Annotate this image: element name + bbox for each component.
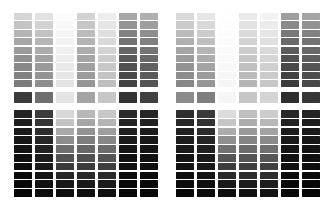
swatch-cell xyxy=(140,110,158,118)
swatch-cell xyxy=(56,13,74,20)
swatch-cell xyxy=(119,110,137,118)
swatch-cell xyxy=(302,13,320,20)
swatch-cell xyxy=(176,145,194,153)
swatch-cell xyxy=(98,63,116,70)
swatch-cell xyxy=(302,80,320,87)
swatch-cell xyxy=(119,163,137,171)
swatch-cell xyxy=(77,145,95,153)
swatch-cell xyxy=(260,172,278,180)
swatch-half-left xyxy=(14,0,161,208)
swatch-cell xyxy=(35,47,53,54)
swatch-cell xyxy=(218,172,236,180)
swatch-cell xyxy=(260,63,278,70)
swatch-cell xyxy=(56,154,74,162)
swatch-cell xyxy=(302,72,320,79)
swatch-cell xyxy=(197,38,215,45)
swatch-cell xyxy=(98,189,116,197)
swatch-cell xyxy=(239,110,257,118)
swatch-cell xyxy=(77,63,95,70)
swatch-cell xyxy=(140,63,158,70)
swatch-cell xyxy=(98,72,116,79)
swatch-cell xyxy=(239,47,257,54)
swatch-cell xyxy=(260,128,278,136)
swatch-cell xyxy=(260,13,278,20)
swatch-cell xyxy=(140,55,158,62)
swatch-cell xyxy=(281,172,299,180)
swatch-cell xyxy=(176,163,194,171)
swatch-column-right-3 xyxy=(218,0,236,208)
swatch-cell xyxy=(176,189,194,197)
swatch-cell xyxy=(119,21,137,28)
swatch-cell xyxy=(35,13,53,20)
swatch-cell xyxy=(77,72,95,79)
swatch-cell xyxy=(218,92,236,103)
swatch-column-right-1 xyxy=(176,0,194,208)
swatch-cell xyxy=(98,180,116,188)
swatch-column-left-1 xyxy=(14,0,32,208)
swatch-cell xyxy=(98,80,116,87)
swatch-cell xyxy=(197,30,215,37)
swatch-cell xyxy=(239,136,257,144)
swatch-cell xyxy=(119,92,137,103)
swatch-cell xyxy=(281,63,299,70)
swatch-cell xyxy=(140,136,158,144)
swatch-cell xyxy=(302,21,320,28)
swatch-cell xyxy=(197,172,215,180)
swatch-cell xyxy=(176,110,194,118)
swatch-cell xyxy=(56,47,74,54)
swatch-cell xyxy=(218,63,236,70)
swatch-cell xyxy=(218,136,236,144)
swatch-cell xyxy=(281,38,299,45)
swatch-cell xyxy=(35,163,53,171)
swatch-cell xyxy=(77,13,95,20)
swatch-cell xyxy=(119,30,137,37)
swatch-cell xyxy=(218,72,236,79)
swatch-cell xyxy=(197,110,215,118)
swatch-cell xyxy=(98,172,116,180)
swatch-cell xyxy=(77,180,95,188)
swatch-cell xyxy=(281,180,299,188)
swatch-cell xyxy=(119,80,137,87)
swatch-cell xyxy=(35,172,53,180)
swatch-column-left-3 xyxy=(56,0,74,208)
swatch-cell xyxy=(56,55,74,62)
swatch-cell xyxy=(98,163,116,171)
swatch-cell xyxy=(239,80,257,87)
swatch-cell xyxy=(35,92,53,103)
swatch-cell xyxy=(119,180,137,188)
swatch-cell xyxy=(14,63,32,70)
swatch-column-right-5 xyxy=(260,0,278,208)
swatch-cell xyxy=(140,119,158,127)
swatch-column-right-6 xyxy=(281,0,299,208)
swatch-cell xyxy=(302,110,320,118)
swatch-cell xyxy=(260,30,278,37)
swatch-cell xyxy=(281,119,299,127)
swatch-cell xyxy=(239,172,257,180)
swatch-cell xyxy=(302,119,320,127)
swatch-cell xyxy=(77,30,95,37)
swatch-cell xyxy=(35,72,53,79)
swatch-cell xyxy=(197,21,215,28)
swatch-cell xyxy=(56,136,74,144)
swatch-cell xyxy=(119,119,137,127)
swatch-cell xyxy=(281,189,299,197)
swatch-cell xyxy=(176,55,194,62)
swatch-cell xyxy=(302,172,320,180)
swatch-cell xyxy=(14,72,32,79)
swatch-cell xyxy=(281,47,299,54)
swatch-cell xyxy=(14,13,32,20)
swatch-cell xyxy=(98,21,116,28)
swatch-cell xyxy=(197,92,215,103)
swatch-cell xyxy=(260,145,278,153)
swatch-cell xyxy=(14,136,32,144)
swatch-cell xyxy=(119,13,137,20)
swatch-cell xyxy=(77,80,95,87)
swatch-cell xyxy=(119,136,137,144)
swatch-cell xyxy=(98,13,116,20)
swatch-cell xyxy=(119,47,137,54)
swatch-cell xyxy=(119,128,137,136)
swatch-cell xyxy=(35,21,53,28)
swatch-cell xyxy=(140,180,158,188)
swatch-cell xyxy=(77,92,95,103)
swatch-cell xyxy=(56,128,74,136)
